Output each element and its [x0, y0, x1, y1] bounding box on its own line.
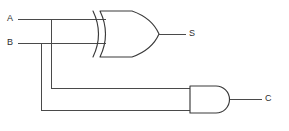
input-label-b: B	[7, 38, 13, 47]
output-label-s: S	[189, 29, 195, 38]
xor-gate-body	[100, 11, 159, 57]
output-label-c: C	[265, 94, 272, 103]
input-label-a: A	[7, 14, 13, 23]
and-gate-body	[190, 86, 230, 113]
circuit-svg	[0, 0, 289, 131]
logic-circuit-diagram: A B S C	[0, 0, 289, 131]
xor-gate-extra-arc	[93, 11, 99, 57]
